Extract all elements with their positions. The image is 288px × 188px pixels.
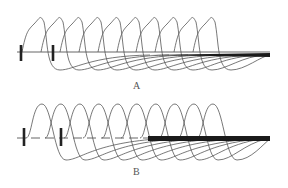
thick-bar	[148, 136, 270, 141]
trajectory-loop	[117, 18, 245, 70]
panel-label-b: B	[133, 166, 140, 177]
panel-b	[17, 104, 270, 160]
thick-bar	[150, 53, 270, 57]
trajectory-loop	[22, 18, 150, 70]
tick-mark	[52, 45, 55, 61]
trajectory-loop	[140, 104, 258, 160]
trajectory-loop	[197, 104, 270, 160]
trajectory-loop	[155, 18, 262, 70]
panel-label-a: A	[133, 80, 140, 91]
trajectory-loop	[41, 18, 169, 70]
trajectory-loop	[60, 18, 188, 70]
trajectory-loop	[79, 18, 207, 70]
panel-a	[17, 18, 270, 70]
diagram-figure	[0, 0, 288, 188]
trajectory-loop	[98, 18, 226, 70]
tick-mark	[23, 128, 26, 146]
tick-mark	[20, 45, 23, 61]
tick-mark	[60, 128, 63, 146]
